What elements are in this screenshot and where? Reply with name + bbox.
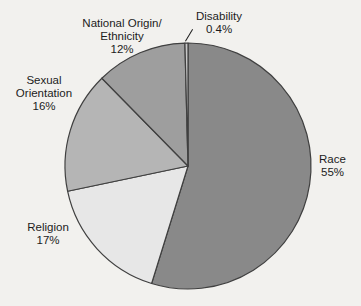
slice-label-race: Race 55% xyxy=(304,153,361,179)
slice-label-race-pct: 55% xyxy=(304,166,361,179)
slice-label-sexual-orientation: Sexual Orientation 16% xyxy=(0,74,88,113)
slice-label-national-origin-line1: National Origin/ xyxy=(62,17,182,30)
slice-label-disability: Disability 0.4% xyxy=(181,10,257,36)
slice-label-disability-text: Disability xyxy=(181,10,257,23)
slice-label-national-origin-pct: 12% xyxy=(62,43,182,56)
slice-label-sexual-orientation-line1: Sexual xyxy=(0,74,88,87)
pie-chart-figure: Disability 0.4% National Origin/ Ethnici… xyxy=(0,0,361,306)
slice-label-race-text: Race xyxy=(304,153,361,166)
slice-label-sexual-orientation-line2: Orientation xyxy=(0,87,88,100)
slice-label-sexual-orientation-pct: 16% xyxy=(0,100,88,113)
slice-label-religion-pct: 17% xyxy=(8,234,88,247)
slice-label-religion: Religion 17% xyxy=(8,221,88,247)
slice-label-national-origin-line2: Ethnicity xyxy=(62,30,182,43)
slice-label-religion-text: Religion xyxy=(8,221,88,234)
slice-label-national-origin: National Origin/ Ethnicity 12% xyxy=(62,17,182,56)
